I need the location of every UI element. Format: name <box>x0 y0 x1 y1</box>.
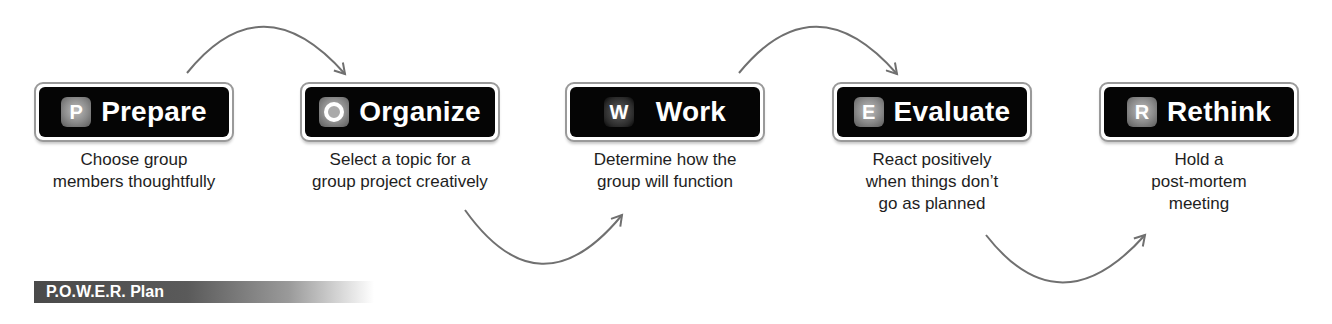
step-label: Prepare <box>101 96 207 128</box>
step-description: React positively when things don’t go as… <box>832 149 1032 215</box>
step-box: R Rethink <box>1099 82 1299 142</box>
step-box: E Evaluate <box>832 82 1032 142</box>
step-work: W Work Determine how the group will func… <box>565 82 765 193</box>
step-organize: Organize Select a topic for a group proj… <box>300 82 500 193</box>
diagram-title-banner: P.O.W.E.R. Plan <box>34 281 374 303</box>
arrow-work-to-evaluate <box>739 27 897 74</box>
letter-badge-icon: E <box>854 97 884 127</box>
step-description: Choose group members thoughtfully <box>34 149 234 193</box>
step-prepare: P Prepare Choose group members thoughtfu… <box>34 82 234 193</box>
step-label: Organize <box>359 96 480 128</box>
step-box: Organize <box>300 82 500 142</box>
arrow-prepare-to-organize <box>187 27 345 74</box>
step-label: Work <box>656 96 726 128</box>
step-box: W Work <box>565 82 765 142</box>
step-rethink: R Rethink Hold a post-mortem meeting <box>1099 82 1299 215</box>
letter-badge-icon: R <box>1127 97 1157 127</box>
arrow-evaluate-to-rethink <box>986 235 1145 283</box>
step-description: Determine how the group will function <box>565 149 765 193</box>
letter-badge-icon: W <box>604 97 634 127</box>
arrow-organize-to-work <box>465 210 622 264</box>
step-box: P Prepare <box>34 82 234 142</box>
step-description: Select a topic for a group project creat… <box>300 149 500 193</box>
step-label: Rethink <box>1167 96 1271 128</box>
step-evaluate: E Evaluate React positively when things … <box>832 82 1032 215</box>
step-label: Evaluate <box>894 96 1011 128</box>
letter-badge-icon <box>319 97 349 127</box>
step-description: Hold a post-mortem meeting <box>1099 149 1299 215</box>
letter-badge-icon: P <box>61 97 91 127</box>
